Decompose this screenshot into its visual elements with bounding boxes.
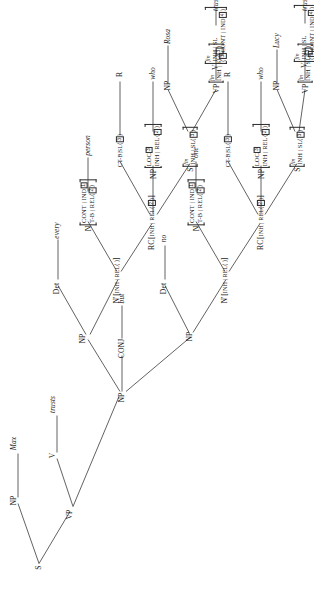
n-one-rel-tag: 2 bbox=[197, 187, 205, 193]
rc-right-inh-rel: INH | REL bbox=[258, 208, 264, 236]
leaf-no: no bbox=[160, 234, 167, 242]
np-who-left-row-inh-rel: INH | REL⟨2⟩ bbox=[153, 126, 161, 166]
node-NP-lucy: NP bbox=[273, 80, 281, 90]
rc-right-category: RC bbox=[257, 239, 265, 249]
np-who-left-avm: LOC3 INH | REL⟨2⟩ bbox=[145, 124, 162, 168]
ctb-sl-right-close: ⟩ bbox=[225, 133, 231, 135]
leaf-who-left: who bbox=[149, 67, 156, 80]
np-who-right-category: NP bbox=[257, 169, 265, 179]
node-VP: VP bbox=[66, 509, 74, 519]
leaf-person: person bbox=[84, 135, 91, 156]
ctb-sl-left-path: CT-B|SL bbox=[117, 144, 123, 166]
node-NP-right-conjunct: NP bbox=[186, 331, 194, 341]
v-rel-left-category: V bbox=[212, 64, 220, 70]
n-person-tb-rel-path: T-B | REL bbox=[88, 195, 95, 222]
n-one-tb-rel-path: T-B | REL bbox=[196, 195, 203, 222]
n-one-ind-tag: 1 bbox=[188, 182, 196, 188]
tree-rotated-group: S NP Max VP V trusts NP CONJ but NP Det … bbox=[0, 0, 314, 601]
np-who-right-rel-tag: 2 bbox=[262, 128, 270, 134]
node-NP-object: NP bbox=[118, 392, 126, 402]
vp-rel-right-category: VP bbox=[301, 83, 309, 93]
node-S-root: S bbox=[35, 565, 43, 569]
np-who-right-row-inh-rel: INH | REL⟨2⟩ bbox=[261, 126, 269, 166]
node-S-rel-right: S fin INH | SL⟨3⟩ bbox=[290, 127, 305, 172]
np-who-left-rel-tag: 2 bbox=[154, 128, 162, 134]
s-rel-right-category: S bbox=[293, 167, 301, 171]
node-Nbar-right: N'[INH | REL⟨ ⟩] bbox=[221, 257, 229, 303]
s-rel-right-inh-sl-path: INH | SL bbox=[296, 140, 303, 164]
rc-left-rel-tag: 2 bbox=[148, 200, 156, 206]
n-person-rel-open: ⟨ bbox=[88, 193, 95, 195]
node-Nbar-left: N'[INH | REL⟨ ⟩] bbox=[113, 257, 121, 303]
ctb-sl-right-tag: 3 bbox=[224, 136, 232, 142]
np-who-right-rel-close: ⟩ bbox=[261, 126, 268, 128]
tree-edges bbox=[0, 0, 314, 601]
node-V-rel-left: V fin INH | SL ⟨3CONT | IND4⟩ bbox=[205, 7, 227, 70]
rc-left-category: RC bbox=[148, 239, 156, 249]
np-who-right-inh-rel-path: INH | REL bbox=[261, 137, 268, 166]
s-rel-right-sl-open: ⟨ bbox=[296, 138, 303, 140]
s-rel-right-row-inh-sl: INH | SL⟨3⟩ bbox=[296, 129, 304, 164]
np-who-right-loc-path: LOC bbox=[253, 153, 260, 166]
v-rel-left-cont-ind-path: CONT | IND bbox=[219, 18, 226, 52]
nbar-left-category: N' bbox=[113, 296, 121, 303]
v-rel-left-row-sl-value: ⟨3CONT | IND4⟩ bbox=[219, 9, 227, 61]
n-one-cont-ind-path: CONT | IND bbox=[188, 188, 195, 222]
v-rel-left-avm: fin INH | SL ⟨3CONT | IND4⟩ bbox=[205, 7, 227, 64]
n-person-row-cont-ind: CONT | IND1 bbox=[80, 181, 88, 222]
v-rel-right-cont-ind-path: CONT | IND bbox=[308, 16, 314, 50]
leaf-who-right: who bbox=[257, 67, 264, 80]
s-rel-left-sl-open: ⟨ bbox=[189, 138, 196, 140]
nbar-right-feature-inh-rel: INH | REL bbox=[222, 265, 228, 293]
node-CONJ: CONJ bbox=[118, 338, 126, 357]
node-NP-subject: NP bbox=[10, 495, 18, 505]
np-who-left-rel-open: ⟨ bbox=[153, 135, 160, 137]
v-rel-left-ind-tag: 4 bbox=[219, 11, 227, 17]
n-one-row-tb-rel: T-B | REL⟨2⟩ bbox=[196, 181, 204, 222]
v-rel-left-sl-open: ⟨ bbox=[219, 59, 226, 61]
ctb-sl-right-path: CT-B|SL bbox=[225, 144, 231, 166]
node-NP-who-right: NP LOC3 INH | REL⟨2⟩ bbox=[253, 124, 270, 179]
rc-left-inh-rel: INH | REL bbox=[149, 208, 155, 236]
nbar-left-close-bracket: ] bbox=[113, 257, 121, 260]
node-NP-who-left: NP LOC3 INH | REL⟨2⟩ bbox=[145, 124, 162, 179]
n-one-rel-open: ⟨ bbox=[196, 193, 203, 195]
node-RC-left: RC[INH | REL⟨2⟩] bbox=[148, 195, 156, 250]
node-ctb-sl-left: CT-B|SL⟨3⟩ bbox=[116, 133, 124, 167]
node-V-rel-right: V fin INH | SL ⟨3CONT | IND4⟩ bbox=[294, 5, 314, 68]
node-Det-right: Det bbox=[160, 282, 168, 293]
nbar-right-close-bracket: ] bbox=[221, 257, 229, 260]
s-rel-right-avm: fin INH | SL⟨3⟩ bbox=[290, 127, 305, 167]
np-who-left-rel-close: ⟩ bbox=[153, 126, 160, 128]
s-rel-right-sl-close: ⟩ bbox=[296, 129, 303, 131]
node-Det-left: Det bbox=[53, 282, 61, 293]
np-who-left-row-loc: LOC3 bbox=[145, 126, 153, 166]
ctb-sl-right-open: ⟨ bbox=[225, 142, 231, 144]
ctb-sl-left-tag: 3 bbox=[116, 136, 124, 142]
rc-right-rel-tag: 2 bbox=[257, 200, 265, 206]
leaf-lucy: Lucy bbox=[273, 33, 280, 48]
node-V-main: V bbox=[49, 452, 57, 458]
nbar-right-category: N' bbox=[221, 296, 229, 303]
leaf-R-right: R bbox=[224, 71, 232, 76]
rc-right-close-bracket: ] bbox=[257, 195, 265, 198]
rc-right-rel-open: ⟨ bbox=[258, 206, 264, 208]
vp-rel-left-category: VP bbox=[212, 83, 220, 93]
v-rel-right-sl-open: ⟨ bbox=[308, 57, 314, 59]
s-rel-right-sl-tag: 3 bbox=[296, 131, 304, 137]
n-one-rel-close: ⟩ bbox=[196, 184, 203, 186]
node-N-person: N CONT | IND1 T-B | REL⟨2⟩ bbox=[80, 179, 97, 231]
v-rel-right-sl-tag: 3 bbox=[308, 50, 314, 56]
v-rel-right-row-inh-sl: INH | SL bbox=[300, 7, 308, 59]
np-who-left-category: NP bbox=[149, 169, 157, 179]
np-who-right-avm: LOC3 INH | REL⟨2⟩ bbox=[253, 124, 270, 168]
node-ctb-sl-right: CT-B|SL⟨3⟩ bbox=[224, 133, 232, 167]
np-who-left-loc-tag: 3 bbox=[145, 146, 153, 152]
s-rel-left-sl-tag: 3 bbox=[189, 131, 197, 137]
node-NP-left-conjunct: NP bbox=[79, 333, 87, 343]
leaf-trusts-left: trusts bbox=[212, 0, 219, 11]
n-person-rel-close: ⟩ bbox=[88, 184, 95, 186]
np-who-left-inh-rel-path: INH | REL bbox=[153, 137, 160, 166]
np-who-left-loc-path: LOC bbox=[145, 153, 152, 166]
ctb-sl-left-close: ⟩ bbox=[117, 133, 123, 135]
